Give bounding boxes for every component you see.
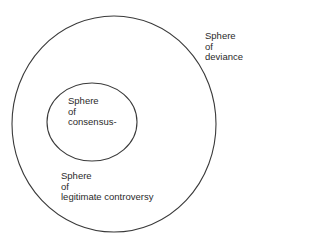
label-line: Sphere (205, 31, 243, 42)
label-line: legitimate controversy (61, 192, 153, 203)
label-line: Sphere (68, 96, 117, 107)
label-line: consensus- (68, 117, 117, 128)
label-sphere-of-legitimate-controversy: Sphere of legitimate controversy (61, 171, 153, 203)
label-sphere-of-deviance: Sphere of deviance (205, 31, 243, 63)
label-sphere-of-consensus: Sphere of consensus- (68, 96, 117, 128)
label-line: Sphere (61, 171, 153, 182)
label-line: deviance (205, 52, 243, 63)
